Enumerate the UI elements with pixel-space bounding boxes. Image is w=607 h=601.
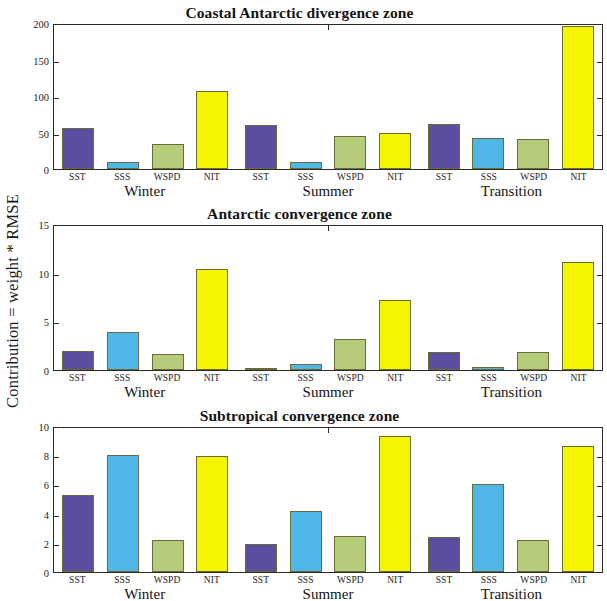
bar-slot	[373, 25, 418, 169]
y-tick-mark-right	[597, 516, 602, 517]
axes-box	[53, 427, 603, 573]
bar-transition-wspd[interactable]	[517, 352, 549, 370]
bar-slot	[555, 25, 600, 169]
bar-slot	[145, 428, 190, 572]
bar-transition-sst[interactable]	[428, 352, 460, 370]
x-tick-label-wspd: WSPD	[328, 170, 373, 182]
bar-transition-sss[interactable]	[472, 484, 504, 572]
y-tick-mark	[54, 457, 59, 458]
bar-slot	[421, 428, 466, 572]
bar-winter-nit[interactable]	[196, 456, 228, 572]
x-variable-row: SSTSSSWSPDNIT	[55, 371, 234, 383]
axes-box	[53, 24, 603, 170]
x-variable-row: SSTSSSWSPDNIT	[422, 371, 601, 383]
x-tick-label-wspd: WSPD	[145, 170, 190, 182]
bar-summer-sss[interactable]	[290, 364, 322, 370]
bar-winter-sst[interactable]	[62, 495, 94, 572]
y-tick-mark-right	[597, 62, 602, 63]
bar-summer-nit[interactable]	[379, 300, 411, 370]
y-tick-mark	[54, 516, 59, 517]
x-tick-mark-top	[328, 226, 329, 231]
bar-slot	[511, 226, 556, 370]
x-tick-label-sss: SSS	[283, 573, 328, 585]
panel-title: Subtropical convergence zone	[26, 407, 607, 425]
bar-group-summer	[237, 428, 420, 572]
bar-transition-nit[interactable]	[562, 262, 594, 370]
x-tick-label-nit: NIT	[189, 573, 234, 585]
x-tick-label-sss: SSS	[466, 170, 511, 182]
bar-summer-wspd[interactable]	[334, 136, 366, 169]
x-tick-label-sss: SSS	[100, 170, 145, 182]
plot-area: 051015 SSTSSSWSPDNITWinterSSTSSSWSPDNITS…	[26, 225, 607, 371]
x-tick-label-sst: SST	[55, 573, 100, 585]
bar-winter-nit[interactable]	[196, 269, 228, 370]
x-tick-label-sst: SST	[238, 371, 283, 383]
y-tick-mark	[54, 98, 59, 99]
bar-slot	[101, 25, 146, 169]
bar-slot	[373, 428, 418, 572]
x-group-label: Winter	[55, 383, 234, 401]
bar-transition-sst[interactable]	[428, 537, 460, 572]
bar-winter-wspd[interactable]	[152, 144, 184, 169]
x-tick-label-nit: NIT	[373, 170, 418, 182]
bar-winter-wspd[interactable]	[152, 354, 184, 370]
bar-slot	[101, 428, 146, 572]
bar-transition-wspd[interactable]	[517, 540, 549, 572]
bar-winter-sst[interactable]	[62, 128, 94, 169]
bar-transition-nit[interactable]	[562, 446, 594, 572]
bar-slot	[328, 428, 373, 572]
x-group-transition: SSTSSSWSPDNITTransition	[420, 170, 603, 200]
bar-summer-sst[interactable]	[245, 125, 277, 169]
bar-summer-sss[interactable]	[290, 162, 322, 169]
x-tick-label-nit: NIT	[556, 573, 601, 585]
bar-summer-wspd[interactable]	[334, 536, 366, 573]
bar-transition-sst[interactable]	[428, 124, 460, 169]
bar-summer-nit[interactable]	[379, 436, 411, 572]
x-group-winter: SSTSSSWSPDNITWinter	[53, 573, 236, 601]
bar-slot	[511, 428, 556, 572]
bar-slot	[555, 226, 600, 370]
y-tick-label: 5	[44, 317, 49, 328]
bar-summer-sst[interactable]	[245, 544, 277, 572]
bar-group-transition	[419, 428, 602, 572]
bar-summer-nit[interactable]	[379, 133, 411, 169]
bar-slot	[190, 428, 235, 572]
y-tick-label: 0	[44, 366, 49, 377]
y-tick-label: 100	[33, 92, 49, 103]
y-tick-mark	[54, 62, 59, 63]
x-group-row: SSTSSSWSPDNITWinterSSTSSSWSPDNITSummerSS…	[53, 371, 603, 401]
x-group-summer: SSTSSSWSPDNITSummer	[236, 170, 419, 200]
bar-groups	[54, 428, 602, 572]
x-group-label: Transition	[422, 182, 601, 200]
bar-winter-wspd[interactable]	[152, 540, 184, 572]
bar-slot	[239, 226, 284, 370]
bar-winter-sss[interactable]	[107, 332, 139, 370]
x-group-label: Winter	[55, 182, 234, 200]
y-tick-label: 10	[39, 422, 50, 433]
x-tick-label-sst: SST	[422, 170, 467, 182]
bar-transition-wspd[interactable]	[517, 139, 549, 169]
bar-summer-sss[interactable]	[290, 511, 322, 572]
x-axis-labels: SSTSSSWSPDNITWinterSSTSSSWSPDNITSummerSS…	[53, 573, 603, 601]
bar-winter-nit[interactable]	[196, 91, 228, 169]
x-tick-label-wspd: WSPD	[511, 170, 556, 182]
plot-area: 0246810 SSTSSSWSPDNITWinterSSTSSSWSPDNIT…	[26, 427, 607, 573]
bar-group-transition	[419, 226, 602, 370]
bar-transition-sss[interactable]	[472, 138, 504, 169]
panel-antarctic-convergence-zone: Antarctic convergence zone 051015 SSTSSS…	[26, 205, 607, 371]
bar-winter-sst[interactable]	[62, 351, 94, 370]
panel-title: Antarctic convergence zone	[26, 205, 607, 223]
bar-transition-sss[interactable]	[472, 367, 504, 370]
x-group-row: SSTSSSWSPDNITWinterSSTSSSWSPDNITSummerSS…	[53, 170, 603, 200]
bar-groups	[54, 25, 602, 169]
y-tick-label: 0	[44, 165, 49, 176]
plot-area: 050100150200 SSTSSSWSPDNITWinterSSTSSSWS…	[26, 24, 607, 170]
bar-transition-nit[interactable]	[562, 26, 594, 169]
bar-group-summer	[237, 226, 420, 370]
y-tick-mark-right	[597, 323, 602, 324]
bar-summer-wspd[interactable]	[334, 339, 366, 370]
bar-winter-sss[interactable]	[107, 162, 139, 169]
bar-summer-sst[interactable]	[245, 368, 277, 370]
bar-winter-sss[interactable]	[107, 455, 139, 572]
axes-box	[53, 225, 603, 371]
